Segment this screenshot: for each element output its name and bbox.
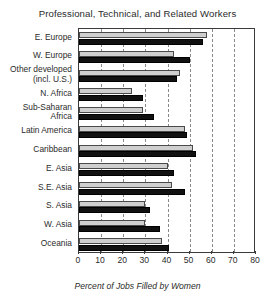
y-axis-label: S. Asia: [0, 201, 72, 211]
bar-dark: [79, 151, 196, 157]
chart-title: Professional, Technical, and Related Wor…: [0, 8, 275, 19]
bar-rows: [79, 29, 254, 252]
bar-light: [79, 182, 172, 188]
y-axis-label: Caribbean: [0, 145, 72, 155]
x-axis-tick-mark: [233, 251, 234, 254]
plot-area: [78, 28, 255, 253]
bar-light: [79, 88, 132, 94]
y-axis-label: E. Asia: [0, 164, 72, 174]
y-axis-label: Other developed (incl. U.S.): [0, 65, 72, 84]
y-axis-label: Latin America: [0, 126, 72, 136]
bar-row: [79, 67, 254, 86]
y-axis-label: W. Europe: [0, 51, 72, 61]
bar-dark: [79, 132, 187, 138]
x-axis-tick-mark: [78, 251, 79, 254]
bar-row: [79, 29, 254, 48]
x-axis-tick-label: 40: [162, 255, 172, 265]
bar-dark: [79, 170, 174, 176]
x-axis-tick-label: 30: [140, 255, 150, 265]
bar-dark: [79, 57, 190, 63]
x-axis-ticks: 01020304050607080: [0, 255, 275, 269]
bar-light: [79, 201, 145, 207]
bar-row: [79, 142, 254, 161]
bar-light: [79, 238, 162, 244]
x-axis-tick-mark: [144, 251, 145, 254]
x-axis-tick-label: 70: [228, 255, 238, 265]
x-axis-tick-mark: [211, 251, 212, 254]
bar-dark: [79, 189, 185, 195]
bar-dark: [79, 226, 160, 232]
bar-row: [79, 85, 254, 104]
x-axis-tick-label: 50: [184, 255, 194, 265]
bar-light: [79, 163, 168, 169]
bar-light: [79, 32, 207, 38]
x-axis-tick-label: 0: [76, 255, 81, 265]
y-axis-label: Oceania: [0, 239, 72, 249]
y-axis-label: W. Asia: [0, 220, 72, 230]
bar-row: [79, 104, 254, 123]
x-axis-tick-label: 10: [95, 255, 105, 265]
bar-row: [79, 123, 254, 142]
bar-light: [79, 107, 143, 113]
y-axis-category-labels: E. EuropeW. EuropeOther developed (incl.…: [0, 28, 75, 253]
x-axis-tick-mark: [167, 251, 168, 254]
y-axis-label: Sub-Saharan Africa: [0, 103, 72, 122]
y-axis-label: S.E. Asia: [0, 183, 72, 193]
bar-dark: [79, 39, 203, 45]
x-axis-tick-label: 60: [206, 255, 216, 265]
chart-figure: Professional, Technical, and Related Wor…: [0, 0, 275, 307]
x-axis-title: Percent of Jobs Filled by Women: [0, 281, 275, 291]
x-axis-tick-mark: [122, 251, 123, 254]
bar-row: [79, 198, 254, 217]
bar-light: [79, 220, 145, 226]
bar-row: [79, 160, 254, 179]
bar-dark: [79, 245, 169, 251]
x-axis-tick-mark: [189, 251, 190, 254]
bar-row: [79, 179, 254, 198]
y-axis-label: E. Europe: [0, 33, 72, 43]
bar-light: [79, 126, 185, 132]
bar-dark: [79, 207, 150, 213]
bar-row: [79, 48, 254, 67]
bar-light: [79, 51, 174, 57]
x-axis-tick-label: 80: [250, 255, 260, 265]
x-axis-tick-mark: [255, 251, 256, 254]
bar-row: [79, 217, 254, 236]
bar-dark: [79, 76, 177, 82]
bar-dark: [79, 114, 154, 120]
y-axis-label: N. Africa: [0, 89, 72, 99]
x-axis-tick-label: 20: [117, 255, 127, 265]
x-axis-tick-mark: [100, 251, 101, 254]
bar-light: [79, 145, 193, 151]
bar-light: [79, 70, 180, 76]
bar-dark: [79, 95, 143, 101]
